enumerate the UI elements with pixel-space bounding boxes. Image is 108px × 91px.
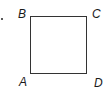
vertex-label-a: A — [19, 76, 27, 88]
square-abcd — [30, 16, 87, 74]
vertex-label-d: D — [94, 77, 103, 89]
vertex-label-c: C — [92, 8, 101, 20]
vertex-label-b: B — [18, 8, 26, 20]
item-marker-dot — [1, 18, 3, 20]
